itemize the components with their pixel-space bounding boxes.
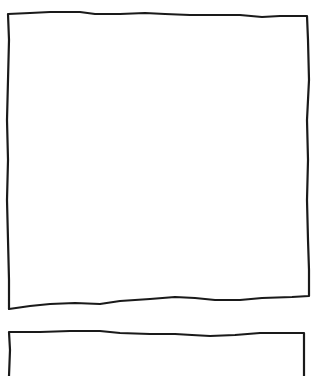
sketch-box-bottom <box>9 331 304 376</box>
sketch-box-top <box>7 12 309 309</box>
sketch-canvas <box>0 0 320 376</box>
